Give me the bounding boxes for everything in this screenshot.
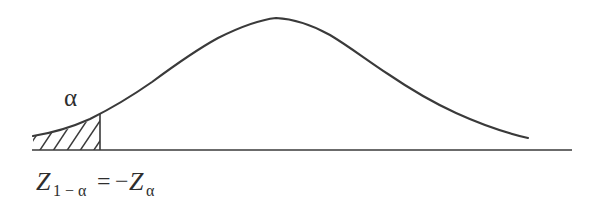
formula-subscript-left: 1 − α (53, 182, 87, 199)
formula-z-left: Z (36, 167, 51, 196)
formula-equals-sign: = (97, 168, 111, 194)
critical-value-formula: Z 1 − α = − Z α (36, 167, 155, 199)
formula-minus-sign: − (115, 168, 129, 194)
alpha-area-label: α (64, 84, 77, 111)
formula-z-right: Z (129, 167, 144, 196)
normal-distribution-curve (33, 18, 528, 138)
formula-subscript-right: α (146, 182, 155, 199)
figure-canvas: α Z 1 − α = − Z α (0, 0, 595, 205)
distribution-figure: α Z 1 − α = − Z α (0, 0, 595, 205)
rejection-region-hatch (20, 109, 121, 165)
